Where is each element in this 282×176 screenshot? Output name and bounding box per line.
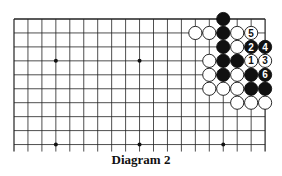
diagram-caption: Diagram 2 [0,152,282,168]
go-board: 524136 [0,0,282,176]
black-stone: 6 [259,68,272,81]
black-stone: 2 [245,40,258,53]
move-number: 4 [262,42,268,53]
black-stone [245,68,258,81]
star-point [54,59,58,63]
black-stone [217,40,230,53]
star-point [221,143,225,147]
move-number: 3 [262,55,268,66]
move-number: 6 [262,69,268,80]
white-stone [203,26,216,39]
star-point [54,143,58,147]
black-stone [217,68,230,81]
white-stone [231,68,244,81]
star-point [138,59,142,63]
black-stone [231,54,244,67]
black-stone [217,54,230,67]
white-stone [217,82,230,95]
white-stone [203,68,216,81]
white-stone [245,96,258,109]
white-stone [203,82,216,95]
white-stone [203,54,216,67]
white-stone [189,26,202,39]
move-number: 1 [248,55,254,66]
white-stone [231,96,244,109]
white-stone: 1 [245,54,258,67]
white-stone [231,26,244,39]
black-stone [245,82,258,95]
black-stone: 4 [259,40,272,53]
white-stone [259,96,272,109]
white-stone [231,40,244,53]
white-stone [231,82,244,95]
black-stone [259,82,272,95]
move-number: 2 [248,42,254,53]
black-stone [217,12,230,25]
move-number: 5 [248,28,254,39]
white-stone: 5 [245,26,258,39]
black-stone [217,26,230,39]
white-stone: 3 [259,54,272,67]
star-point [138,143,142,147]
